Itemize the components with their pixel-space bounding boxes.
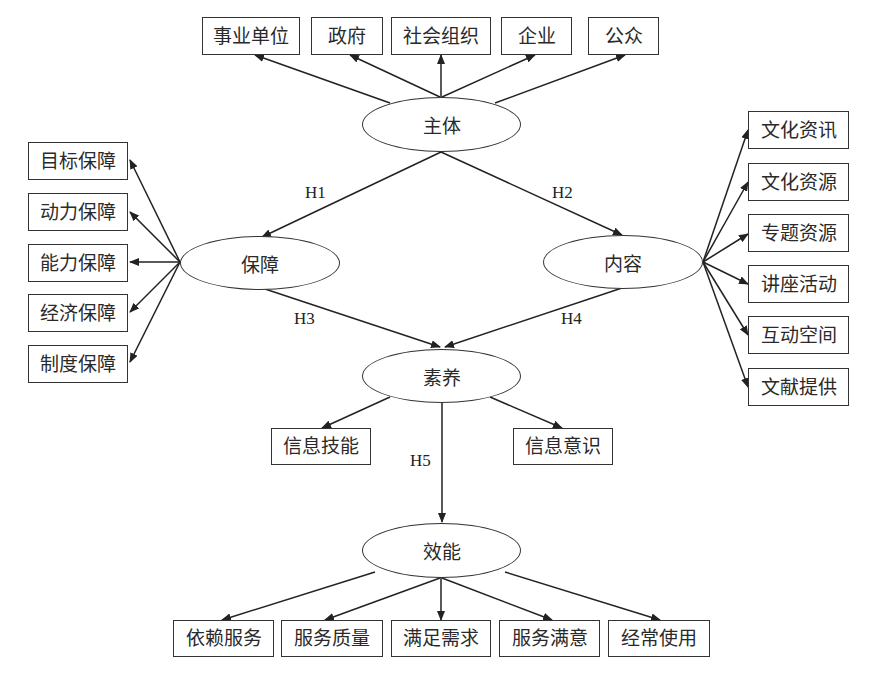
- edge-e-4: [442, 578, 552, 620]
- indicator-zhengfu: 政府: [311, 17, 383, 55]
- edge-g-5: [130, 262, 180, 362]
- label-h5: H5: [410, 451, 431, 471]
- indicator-xinxi-jineng: 信息技能: [271, 428, 371, 465]
- edge-c-1: [703, 130, 748, 262]
- edge-g-1: [130, 160, 180, 262]
- indicator-mubiao-baozhang: 目标保障: [28, 142, 128, 180]
- indicator-yilai-fuwu: 依赖服务: [173, 620, 274, 657]
- edge-h4: [445, 288, 622, 347]
- indicator-wenhua-zixun: 文化资讯: [748, 111, 849, 149]
- edge-l-1: [322, 397, 390, 428]
- edge-g-2: [130, 212, 180, 262]
- indicator-shiye-danwei: 事业单位: [202, 17, 300, 55]
- edge-l-2: [490, 397, 562, 428]
- indicator-manzu-xuqiu: 满足需求: [391, 620, 491, 657]
- edge-h1: [262, 152, 441, 237]
- node-literacy: 素养: [362, 349, 521, 403]
- indicator-fuwu-zhiliang: 服务质量: [281, 620, 383, 657]
- node-efficacy: 效能: [362, 523, 521, 578]
- label-h3: H3: [294, 309, 315, 329]
- label-h1: H1: [305, 183, 326, 203]
- node-guarantee: 保障: [180, 236, 340, 290]
- indicator-wenxian-tigong: 文献提供: [748, 368, 849, 406]
- indicator-jingji-baozhang: 经济保障: [28, 294, 128, 332]
- edge-subject-qiye: [442, 55, 535, 97]
- node-subject: 主体: [362, 97, 521, 152]
- label-h4: H4: [561, 309, 582, 329]
- indicator-jingchang-shiyong: 经常使用: [608, 620, 710, 657]
- indicator-nengli-baozhang: 能力保障: [28, 244, 128, 282]
- indicator-xinxi-yishi: 信息意识: [513, 428, 613, 465]
- indicator-fuwu-manyi: 服务满意: [499, 620, 600, 657]
- edge-subject-zhengfu: [350, 55, 440, 97]
- edge-c-3: [703, 234, 748, 262]
- indicator-dongli-baozhang: 动力保障: [28, 193, 128, 231]
- indicator-hudong-kongjian: 互动空间: [748, 316, 849, 354]
- edge-h3: [262, 288, 440, 347]
- edge-e-2: [325, 578, 440, 620]
- indicator-zhuanti-ziyuan: 专题资源: [748, 214, 849, 252]
- edge-h2: [441, 152, 622, 235]
- edge-subject-gongzhong: [495, 55, 625, 103]
- indicator-qiye: 企业: [501, 17, 572, 55]
- label-h2: H2: [552, 183, 573, 203]
- indicator-gongzhong: 公众: [588, 17, 659, 55]
- edge-subject-shiye: [255, 55, 390, 103]
- edge-g-4: [130, 262, 180, 312]
- indicator-shehui-zuzhi: 社会组织: [391, 17, 491, 55]
- indicator-wenhua-ziyuan: 文化资源: [748, 163, 849, 201]
- indicator-zhidu-baozhang: 制度保障: [28, 345, 128, 383]
- indicator-jiangzuo-huodong: 讲座活动: [748, 265, 849, 303]
- edge-e-1: [222, 572, 375, 620]
- node-content: 内容: [543, 235, 703, 289]
- edge-e-5: [505, 572, 660, 620]
